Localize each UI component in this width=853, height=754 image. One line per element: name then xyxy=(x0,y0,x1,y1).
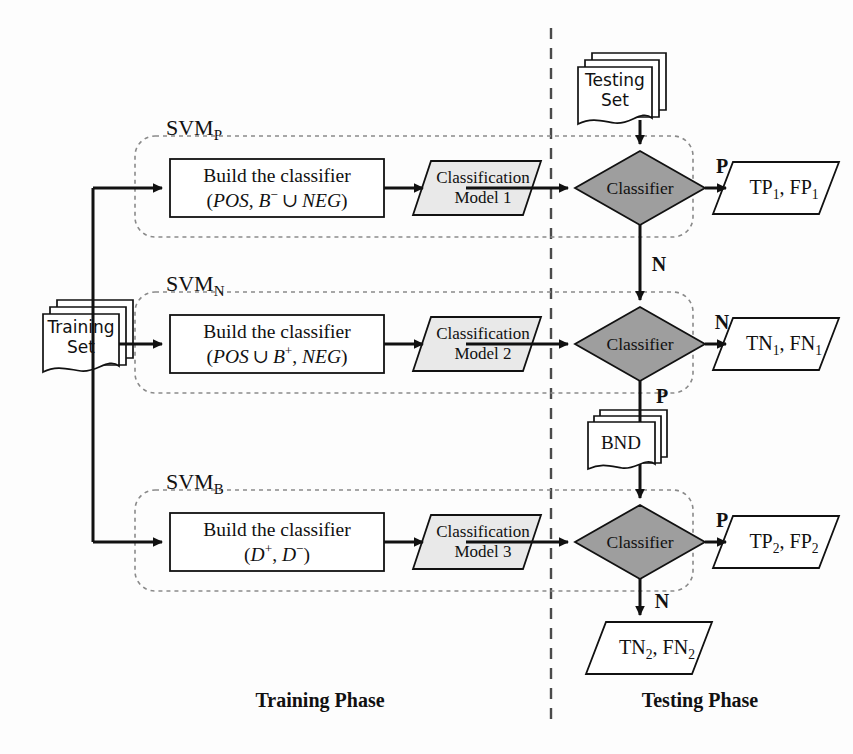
group-title-svm-b: SVMB xyxy=(166,469,224,498)
build-block-2-line1: Build the classifier xyxy=(203,320,350,343)
testing-set-label: Testing Set xyxy=(585,70,645,110)
branch-label-p-3: P xyxy=(716,509,728,532)
build-block-1-line1: Build the classifier xyxy=(203,164,350,187)
classifier-1-label: Classifier xyxy=(606,178,673,199)
flowchart-vector-layer xyxy=(0,0,853,754)
branch-label-p-1: P xyxy=(716,155,728,178)
branch-label-n-1: N xyxy=(652,253,666,276)
group-title-svm-n: SVMN xyxy=(166,271,225,300)
build-block-2-line2: (POS ∪ B+, NEG) xyxy=(203,343,350,368)
training-set-label-line2: Set xyxy=(47,337,114,357)
branch-label-p-2: P xyxy=(656,385,668,408)
build-block-3-line2: (D+, D−) xyxy=(203,541,350,566)
group-title-svm-p: SVMP xyxy=(166,115,222,144)
branch-label-n-3: N xyxy=(655,590,669,613)
phase-label-training: Training Phase xyxy=(255,689,384,712)
training-set-label-line1: Training xyxy=(47,317,114,337)
out-tp1-fp1-label: TP1, FP1 xyxy=(749,176,818,203)
out-tn2-fn2-label: TN2, FN2 xyxy=(619,636,695,663)
build-block-3-label: Build the classifier (D+, D−) xyxy=(203,518,350,566)
phase-label-testing: Testing Phase xyxy=(642,689,759,712)
bnd-label-text: BND xyxy=(601,432,641,453)
testing-set-label-line1: Testing xyxy=(585,70,645,90)
build-block-2-label: Build the classifier (POS ∪ B+, NEG) xyxy=(203,320,350,368)
classifier-2-label: Classifier xyxy=(606,334,673,355)
model-2-line2: Model 2 xyxy=(436,344,529,364)
model-1-line1: Classification xyxy=(436,168,529,188)
model-3-line1: Classification xyxy=(436,522,529,542)
out-tp2-fp2-label: TP2, FP2 xyxy=(749,530,818,557)
decision-diamonds xyxy=(575,151,705,579)
flowchart-canvas: SVMP SVMN SVMB Training Set Testing Set … xyxy=(0,0,853,754)
model-3-line2: Model 3 xyxy=(436,542,529,562)
classifier-3-label: Classifier xyxy=(606,532,673,553)
out-tn1-fn1-label: TN1, FN1 xyxy=(746,332,822,359)
build-block-1-line2: (POS, B− ∪ NEG) xyxy=(203,187,350,212)
bnd-label: BND xyxy=(601,432,641,454)
model-2-line1: Classification xyxy=(436,324,529,344)
testing-set-label-line2: Set xyxy=(585,90,645,110)
model-parallelograms xyxy=(413,161,541,569)
model-2-label: Classification Model 2 xyxy=(436,324,529,364)
model-3-label: Classification Model 3 xyxy=(436,522,529,562)
model-1-label: Classification Model 1 xyxy=(436,168,529,208)
branch-label-n-2: N xyxy=(715,311,729,334)
build-block-1-label: Build the classifier (POS, B− ∪ NEG) xyxy=(203,164,350,212)
build-block-3-line1: Build the classifier xyxy=(203,518,350,541)
model-1-line2: Model 1 xyxy=(436,188,529,208)
training-set-label: Training Set xyxy=(47,317,114,357)
